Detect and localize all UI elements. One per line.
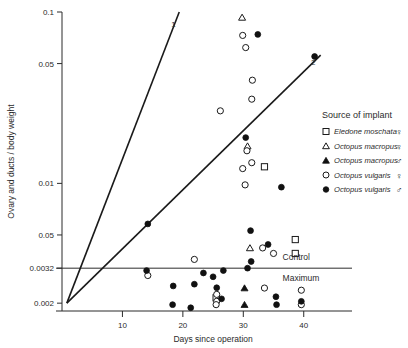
- data-point: [220, 268, 226, 274]
- data-point: [245, 265, 251, 271]
- legend-sex-4: ♂: [396, 185, 403, 195]
- data-point: [248, 228, 254, 234]
- x-tick-label: 10: [118, 321, 127, 330]
- y-tick-label: 0.002: [34, 299, 55, 308]
- data-point: [246, 245, 253, 251]
- data-point: [243, 135, 249, 141]
- trend-line-1: [67, 12, 179, 303]
- y-tick-label: 0.05: [38, 231, 54, 240]
- data-point: [248, 259, 254, 265]
- data-point: [188, 305, 194, 311]
- data-point: [298, 298, 304, 304]
- data-point: [240, 32, 246, 38]
- x-tick-label: 40: [299, 321, 308, 330]
- axis-labels: 0.10.050.010.050.00320.00210203040Days s…: [6, 8, 319, 344]
- data-point: [145, 221, 151, 227]
- series-3: [145, 32, 305, 307]
- legend-sex-3: ♀: [396, 171, 403, 181]
- trend-line-label-1: 1: [171, 20, 176, 29]
- data-point: [240, 165, 246, 171]
- data-point: [278, 184, 284, 190]
- series-2: [241, 285, 248, 308]
- trend-line-2: [67, 55, 321, 303]
- legend-sex-1: ♀: [396, 142, 403, 152]
- data-point: [201, 270, 207, 276]
- data-point: [191, 256, 197, 262]
- legend-marker-4: [323, 187, 329, 193]
- legend-sex-0: ♀: [396, 127, 403, 137]
- data-points: [144, 14, 318, 310]
- legend-title: Source of implant: [322, 110, 393, 120]
- legend: Source of implantEledone moschata♀Octopu…: [322, 110, 402, 195]
- data-point: [217, 108, 223, 114]
- data-point: [261, 164, 267, 170]
- data-point: [244, 148, 250, 154]
- trend-line-label-2: 2: [311, 58, 316, 67]
- data-point: [170, 283, 176, 289]
- data-point: [170, 302, 176, 308]
- y-tick-label: 0.05: [38, 60, 54, 69]
- data-point: [213, 302, 219, 308]
- annotation-control: Control: [283, 252, 311, 262]
- data-point: [273, 294, 279, 300]
- x-tick-label: 30: [239, 321, 248, 330]
- data-point: [298, 287, 304, 293]
- data-point: [260, 245, 266, 251]
- legend-label-1: Octopus macropus: [334, 142, 398, 151]
- data-point: [261, 285, 267, 291]
- data-point: [242, 182, 248, 188]
- legend-label-4: Octopus vulgaris: [334, 185, 391, 194]
- y-tick-label: 0.0032: [30, 264, 55, 273]
- data-point: [249, 160, 255, 166]
- data-point: [249, 77, 255, 83]
- legend-label-0: Eledone moschata: [334, 127, 397, 136]
- data-point: [214, 285, 220, 291]
- data-point: [265, 242, 271, 248]
- y-tick-label: 0.1: [43, 8, 55, 17]
- data-point: [243, 44, 249, 50]
- data-point: [210, 274, 216, 280]
- legend-label-2: Octopus macropus: [334, 156, 398, 165]
- legend-marker-1: [323, 143, 330, 149]
- legend-sex-2: ♂: [396, 156, 403, 166]
- legend-label-3: Octopus vulgaris: [334, 171, 391, 180]
- data-point: [144, 268, 150, 274]
- data-point: [191, 281, 197, 287]
- x-axis-title: Days since operation: [173, 334, 253, 344]
- data-point: [241, 285, 248, 291]
- data-point: [292, 236, 298, 242]
- y-axis-title: Ovary and ducts / body weight: [6, 104, 16, 219]
- annotation-maximum: Maximum: [283, 273, 320, 283]
- scatter-plot: 0.10.050.010.050.00320.00210203040Days s…: [0, 0, 408, 348]
- data-point: [270, 250, 276, 256]
- data-point: [274, 302, 280, 308]
- series-4: [144, 32, 318, 311]
- data-point: [249, 96, 255, 102]
- data-point: [214, 291, 220, 297]
- data-point: [241, 301, 248, 307]
- x-tick-label: 20: [178, 321, 187, 330]
- data-point: [239, 14, 246, 20]
- chart-figure: 0.10.050.010.050.00320.00210203040Days s…: [0, 0, 408, 348]
- data-point: [219, 296, 225, 302]
- data-point: [255, 32, 261, 38]
- y-tick-label: 0.01: [38, 179, 54, 188]
- legend-marker-2: [323, 157, 330, 163]
- legend-marker-3: [323, 172, 329, 178]
- legend-marker-0: [323, 129, 329, 135]
